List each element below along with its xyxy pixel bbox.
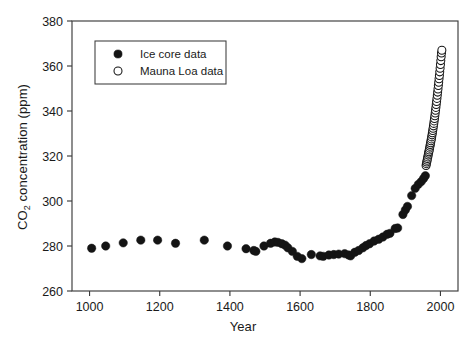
- y-axis-title-post: concentration (ppm): [15, 84, 30, 205]
- data-point: [119, 239, 127, 247]
- data-point: [171, 239, 179, 247]
- data-point: [298, 254, 306, 262]
- data-point: [252, 247, 260, 255]
- data-point: [87, 244, 95, 252]
- data-point: [393, 224, 401, 232]
- y-tick-label-380: 380: [42, 15, 63, 29]
- data-point: [101, 242, 109, 250]
- chart-background: [0, 0, 475, 350]
- co2-concentration-chart: 260280300320340360380 100012001400160018…: [0, 0, 475, 350]
- data-point: [438, 46, 446, 54]
- x-tick-label-2000: 2000: [427, 300, 455, 314]
- legend-marker-ice-core-icon: [114, 50, 122, 58]
- legend-marker-mauna-loa-icon: [114, 67, 122, 75]
- data-point: [307, 250, 315, 258]
- y-tick-label-280: 280: [42, 240, 63, 254]
- data-point: [223, 242, 231, 250]
- data-point: [137, 236, 145, 244]
- x-tick-label-1400: 1400: [216, 300, 244, 314]
- data-point: [242, 245, 250, 253]
- legend-label-mauna-loa: Mauna Loa data: [140, 65, 224, 77]
- y-tick-label-340: 340: [42, 105, 63, 119]
- data-point: [403, 202, 411, 210]
- x-tick-label-1800: 1800: [356, 300, 384, 314]
- x-axis-title: Year: [230, 319, 257, 334]
- data-point: [200, 236, 208, 244]
- y-tick-label-320: 320: [42, 150, 63, 164]
- data-point: [153, 236, 161, 244]
- data-point: [421, 172, 429, 180]
- y-axis-title-pre: CO: [15, 210, 30, 230]
- y-tick-label-260: 260: [42, 285, 63, 299]
- legend-label-ice-core: Ice core data: [140, 48, 207, 60]
- x-tick-label-1600: 1600: [286, 300, 314, 314]
- x-tick-label-1000: 1000: [76, 300, 104, 314]
- x-tick-label-1200: 1200: [146, 300, 174, 314]
- y-tick-label-360: 360: [42, 60, 63, 74]
- y-tick-label-300: 300: [42, 195, 63, 209]
- legend: Ice core data Mauna Loa data: [95, 41, 226, 84]
